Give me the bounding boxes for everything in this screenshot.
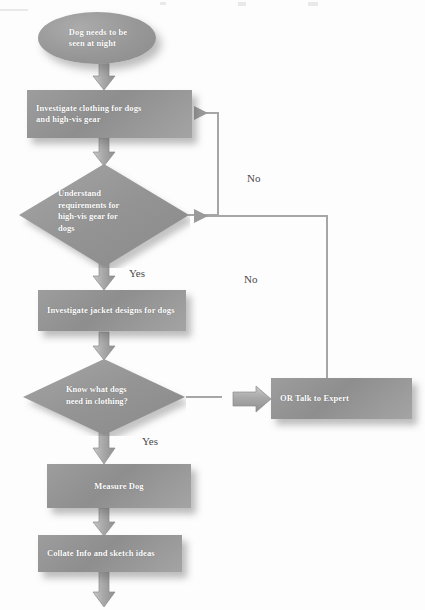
node-understand-label-line3: high-vis gear for bbox=[58, 211, 118, 221]
arrow-jacket-to-know bbox=[93, 332, 115, 360]
node-measure-dog[interactable]: Measure Dog bbox=[47, 464, 191, 508]
arrow-start-to-investigate bbox=[93, 62, 115, 90]
node-know-label-line2: need in clothing? bbox=[66, 396, 128, 406]
node-investigate-jacket-designs-label: Investigate jacket designs for dogs bbox=[38, 305, 186, 316]
node-start-label: Dog needs to be seen at night bbox=[67, 27, 127, 49]
edge-label-yes-lower: Yes bbox=[139, 434, 161, 449]
node-talk-to-expert-label: OR Talk to Expert bbox=[271, 393, 412, 404]
node-know-label-line1: Know what dogs bbox=[66, 384, 126, 394]
node-start-label-line1: Dog needs to be bbox=[69, 27, 127, 37]
edge-label-no-lower: No bbox=[241, 272, 260, 287]
node-collate-info[interactable]: Collate Info and sketch ideas bbox=[38, 535, 182, 572]
scan-artifact bbox=[160, 2, 166, 5]
node-investigate-jacket-designs[interactable]: Investigate jacket designs for dogs bbox=[38, 290, 186, 331]
node-investigate-clothing-label-line2: and high-vis gear bbox=[36, 114, 101, 124]
node-investigate-clothing[interactable]: Investigate clothing for dogs and high-v… bbox=[27, 90, 192, 138]
node-know-what-dogs-need[interactable]: Know what dogs need in clothing? bbox=[22, 358, 186, 436]
scan-artifact bbox=[0, 9, 28, 11]
node-understand-requirements-label: Understand requirements for high-vis gea… bbox=[58, 188, 158, 234]
edge-label-yes-upper: Yes bbox=[126, 266, 148, 281]
node-investigate-clothing-label-line1: Investigate clothing for dogs bbox=[36, 103, 141, 113]
node-start-dog-needs-to-be-seen[interactable]: Dog needs to be seen at night bbox=[38, 12, 156, 64]
node-talk-to-expert[interactable]: OR Talk to Expert bbox=[271, 378, 412, 419]
node-start-label-line2: seen at night bbox=[69, 38, 116, 48]
node-collate-info-label: Collate Info and sketch ideas bbox=[38, 548, 182, 559]
scan-artifact bbox=[238, 2, 246, 6]
arrow-measure-to-collate bbox=[93, 508, 115, 536]
node-understand-label-line1: Understand bbox=[58, 188, 101, 198]
edge-expert-to-understand-no bbox=[196, 216, 327, 378]
node-understand-requirements[interactable]: Understand requirements for high-vis gea… bbox=[18, 163, 190, 268]
node-understand-label-line4: dogs bbox=[58, 223, 75, 233]
scan-artifact bbox=[308, 2, 318, 6]
edge-label-no-upper: No bbox=[244, 171, 263, 186]
node-measure-dog-label: Measure Dog bbox=[47, 481, 191, 492]
node-know-what-dogs-need-label: Know what dogs need in clothing? bbox=[66, 384, 162, 407]
node-investigate-clothing-label: Investigate clothing for dogs and high-v… bbox=[27, 103, 192, 125]
flowchart-canvas: Dog needs to be seen at night Investigat… bbox=[0, 0, 425, 610]
edge-understand-to-investigate-no bbox=[188, 113, 218, 215]
arrow-collate-to-next bbox=[93, 570, 115, 607]
node-understand-label-line2: requirements for bbox=[58, 200, 119, 210]
arrow-to-talk-to-expert bbox=[233, 386, 271, 412]
arrow-investigate-to-understand bbox=[93, 138, 115, 166]
